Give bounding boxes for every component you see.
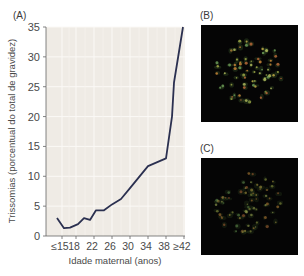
x-tick-label: 26: [104, 240, 116, 252]
x-tick-label: 38: [158, 240, 170, 252]
y-tick-label: 10: [28, 170, 40, 182]
x-axis-ticks: ≤15182226303438≥42: [51, 236, 191, 252]
y-tick-label: 30: [28, 51, 40, 63]
y-tick-label: 35: [28, 21, 40, 33]
y-tick-label: 0: [34, 230, 40, 242]
plot-area: [46, 27, 185, 236]
x-tick-label: 22: [86, 240, 98, 252]
x-tick-label: 18: [68, 240, 80, 252]
x-tick-label: 34: [140, 240, 152, 252]
x-tick-label: 30: [122, 240, 134, 252]
panel-c-label: (C): [200, 143, 214, 154]
x-axis-label: Idade maternal (anos): [69, 255, 162, 266]
karyotype-image-c: [201, 158, 298, 255]
panel-b-label: (B): [200, 10, 213, 21]
y-tick-label: 25: [28, 81, 40, 93]
y-tick-label: 5: [34, 200, 40, 212]
karyotype-image-b: [201, 25, 298, 122]
y-tick-label: 20: [28, 111, 40, 123]
y-axis-ticks: 05101520253035: [28, 21, 46, 242]
y-tick-label: 15: [28, 140, 40, 152]
x-tick-label: ≥42: [173, 240, 191, 252]
y-axis-label: Trissomias (porcentual do total de gravi…: [6, 39, 17, 223]
x-tick-label: ≤15: [51, 240, 69, 252]
trisomy-line-chart: 05101520253035 ≤15182226303438≥42 Trisso…: [0, 0, 200, 276]
